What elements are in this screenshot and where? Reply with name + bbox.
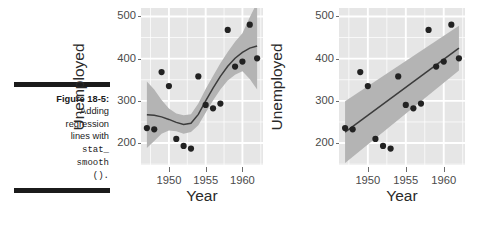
chart-linear: Unemployed 200300400500 195019551960 Yea… — [276, 0, 480, 233]
data-point — [372, 136, 378, 142]
y-tick-label: 200 — [300, 136, 334, 148]
x-tick-label: 1955 — [186, 174, 226, 186]
data-point — [239, 58, 245, 64]
data-point — [456, 55, 462, 61]
x-tick-mark — [206, 167, 207, 172]
data-point — [410, 105, 416, 111]
chart-linear-x-axis-title: Year — [339, 187, 465, 205]
x-tick-mark — [444, 167, 445, 172]
y-tick-label: 200 — [102, 136, 136, 148]
data-point — [254, 55, 260, 61]
y-tick-label: 500 — [300, 9, 334, 21]
data-point — [448, 22, 454, 28]
y-tick-label: 300 — [102, 94, 136, 106]
chart-loess-y-axis-title: Unemployed — [70, 43, 88, 130]
y-tick-label: 500 — [102, 9, 136, 21]
data-point — [158, 69, 164, 75]
data-point — [225, 27, 231, 33]
x-tick-mark — [242, 167, 243, 172]
data-point — [350, 126, 356, 132]
y-tick-label: 400 — [102, 52, 136, 64]
confidence-ribbon — [147, 8, 257, 148]
data-point — [151, 126, 157, 132]
data-point — [144, 125, 150, 131]
data-point — [247, 22, 253, 28]
data-point — [388, 145, 394, 151]
data-point — [441, 58, 447, 64]
x-tick-mark — [368, 167, 369, 172]
data-point — [433, 63, 439, 69]
chart-loess-x-axis-title: Year — [141, 187, 263, 205]
x-tick-label: 1950 — [348, 174, 388, 186]
data-point — [418, 100, 424, 106]
x-tick-mark — [169, 167, 170, 172]
y-tick-label: 400 — [300, 52, 334, 64]
data-point — [380, 143, 386, 149]
chart-linear-y-axis-title: Unemployed — [268, 43, 286, 130]
chart-loess-panel — [141, 8, 263, 165]
x-tick-mark — [406, 167, 407, 172]
data-point — [181, 143, 187, 149]
data-point — [195, 73, 201, 79]
x-tick-label: 1955 — [386, 174, 426, 186]
data-point — [210, 105, 216, 111]
data-point — [217, 100, 223, 106]
figure-page: Figure 18-5: Adding regression lines wit… — [0, 0, 480, 233]
data-point — [166, 83, 172, 89]
x-tick-label: 1950 — [149, 174, 189, 186]
data-point — [342, 125, 348, 131]
chart-loess: Unemployed 200300400500 195019551960 Yea… — [76, 0, 276, 233]
data-point — [357, 69, 363, 75]
data-point — [188, 145, 194, 151]
data-point — [425, 27, 431, 33]
chart-linear-panel — [339, 8, 465, 165]
data-point — [365, 83, 371, 89]
data-point — [232, 63, 238, 69]
data-point — [203, 102, 209, 108]
data-point — [173, 136, 179, 142]
data-point — [395, 73, 401, 79]
x-tick-label: 1960 — [222, 174, 262, 186]
data-point — [403, 102, 409, 108]
y-tick-label: 300 — [300, 94, 334, 106]
x-tick-label: 1960 — [424, 174, 464, 186]
